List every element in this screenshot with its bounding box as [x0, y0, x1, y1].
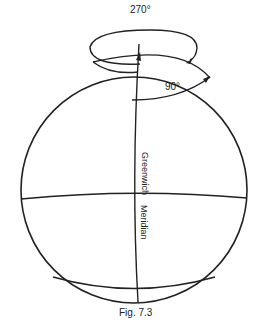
greenwich-meridian-line: [135, 44, 139, 302]
lower-latitude-line: [53, 277, 215, 289]
globe-diagram: 270° 90° Greenwich Meridian Fig. 7.3: [0, 0, 270, 327]
label-90: 90°: [165, 81, 180, 92]
label-greenwich: Greenwich: [140, 152, 150, 195]
figure-caption: Fig. 7.3: [119, 307, 153, 318]
label-meridian: Meridian: [139, 205, 149, 240]
label-270: 270°: [130, 4, 151, 15]
sphere-outline: [21, 77, 247, 303]
equator-line: [21, 193, 247, 199]
